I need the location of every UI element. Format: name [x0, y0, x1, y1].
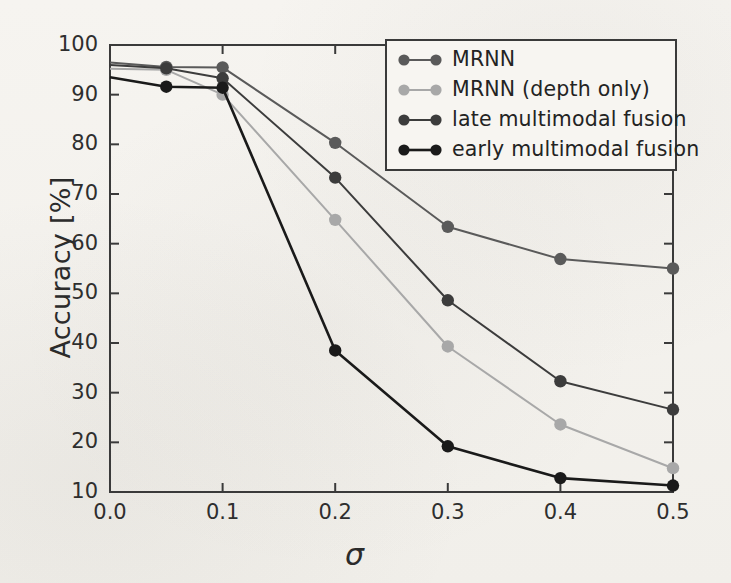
data-point: [329, 137, 341, 149]
y-tick-label: 100: [38, 32, 98, 56]
data-point: [216, 61, 228, 73]
y-tick-label: 50: [38, 280, 98, 304]
data-point: [329, 344, 341, 356]
data-point: [554, 375, 566, 387]
y-tick-label: 60: [38, 231, 98, 255]
data-point: [442, 340, 454, 352]
legend-marker: [430, 144, 441, 155]
legend-marker: [398, 84, 409, 95]
y-tick-label: 70: [38, 181, 98, 205]
legend-label: MRNN: [452, 47, 515, 71]
data-point: [667, 403, 679, 415]
data-point: [667, 262, 679, 274]
y-tick-label: 30: [38, 380, 98, 404]
data-point: [160, 81, 172, 93]
legend-marker: [430, 84, 441, 95]
x-tick-label: 0.3: [413, 500, 483, 524]
y-tick-label: 90: [38, 82, 98, 106]
x-tick-label: 0.2: [300, 500, 370, 524]
x-tick-label: 0.5: [638, 500, 708, 524]
data-point: [329, 214, 341, 226]
data-point: [329, 171, 341, 183]
data-point: [442, 440, 454, 452]
data-point: [160, 62, 172, 74]
data-point: [554, 472, 566, 484]
legend-label: early multimodal fusion: [452, 137, 699, 161]
data-point: [554, 418, 566, 430]
x-tick-label: 0.0: [75, 500, 145, 524]
data-point: [216, 82, 228, 94]
data-point: [554, 253, 566, 265]
data-point: [667, 462, 679, 474]
accuracy-vs-sigma-chart: Accuracy [%] σ 102030405060708090100 0.0…: [0, 0, 731, 583]
legend-marker: [398, 144, 409, 155]
x-tick-label: 0.1: [188, 500, 258, 524]
data-point: [442, 294, 454, 306]
y-tick-label: 40: [38, 330, 98, 354]
y-tick-label: 20: [38, 429, 98, 453]
legend-marker: [430, 54, 441, 65]
data-point: [667, 479, 679, 491]
legend-label: MRNN (depth only): [452, 77, 650, 101]
data-point: [442, 221, 454, 233]
y-tick-label: 80: [38, 131, 98, 155]
legend-marker: [430, 114, 441, 125]
legend-marker: [398, 54, 409, 65]
legend-marker: [398, 114, 409, 125]
legend-label: late multimodal fusion: [452, 107, 687, 131]
x-tick-label: 0.4: [525, 500, 595, 524]
